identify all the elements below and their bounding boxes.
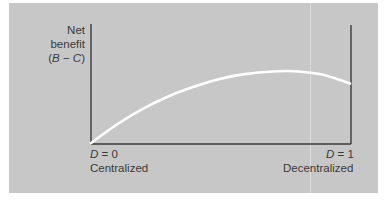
x-tick-caption-decentralized: Decentralized: [283, 161, 353, 175]
tick-eq: = 0: [98, 148, 118, 160]
y-label-line-3: (B − C): [48, 51, 85, 65]
var-c: C: [73, 52, 81, 64]
paren-close: ): [81, 52, 85, 64]
y-label-line-1: Net: [48, 23, 85, 37]
y-label-line-2: benefit: [48, 37, 85, 51]
x-tick-caption-centralized: Centralized: [90, 161, 148, 175]
y-axis-label: Net benefit (B − C): [48, 23, 85, 65]
x-tick-d1: D = 1: [326, 147, 354, 161]
minus-sign: −: [60, 52, 73, 64]
var-b: B: [52, 52, 60, 64]
x-tick-d0: D = 0: [90, 147, 118, 161]
net-benefit-curve: [91, 71, 350, 143]
tick-eq: = 1: [334, 148, 354, 160]
